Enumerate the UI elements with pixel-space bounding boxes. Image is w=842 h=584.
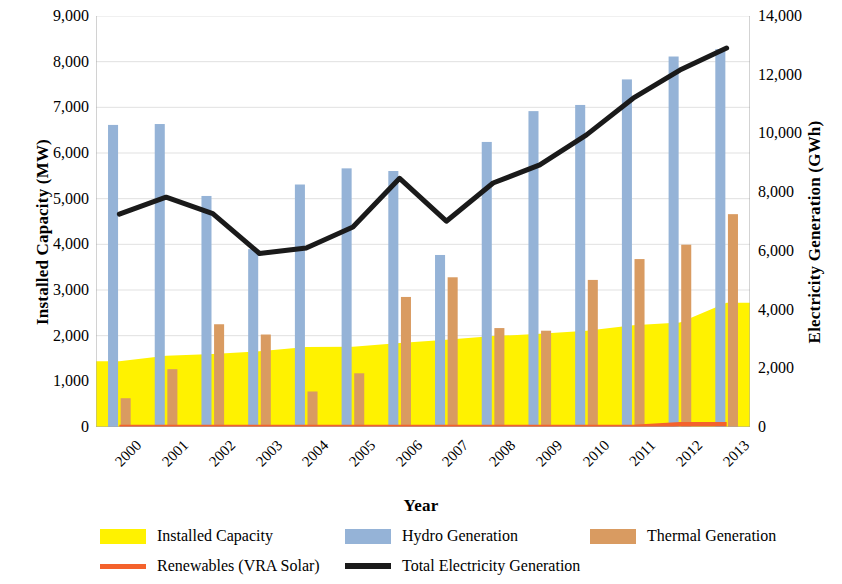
y-axis-right-tick-label: 2,000 [750, 360, 794, 376]
x-axis-tick-label: 2005 [324, 437, 378, 491]
y-axis-right-tick-label: 0 [750, 419, 766, 435]
chart-container: Installed Capacity (MW) Electricity Gene… [0, 0, 842, 584]
legend-row-2: Renewables (VRA Solar) Total Electricity… [100, 554, 800, 578]
x-axis-tick-label: 2003 [231, 437, 285, 491]
legend-label-total-electricity-generation: Total Electricity Generation [402, 557, 580, 575]
bar-thermal-generation [354, 373, 364, 427]
bar-thermal-generation [681, 245, 691, 427]
chart-legend: Installed Capacity Hydro Generation Ther… [100, 524, 800, 582]
y-axis-left-tick-label: 1,000 [53, 373, 96, 389]
x-axis-tick-label: 2002 [184, 437, 238, 491]
legend-swatch-thermal-generation [590, 529, 636, 544]
y-axis-right-tick-label: 4,000 [750, 302, 794, 318]
legend-item-thermal-generation: Thermal Generation [590, 527, 776, 545]
bar-thermal-generation [494, 328, 504, 427]
x-axis-tick-label: 2011 [605, 437, 659, 491]
legend-label-installed-capacity: Installed Capacity [157, 527, 273, 545]
y-axis-left-tick-label: 8,000 [53, 54, 96, 70]
x-axis-title: Year [0, 496, 842, 516]
bar-thermal-generation [167, 369, 177, 427]
x-axis-tick-label: 2001 [138, 437, 192, 491]
bar-hydro-generation [342, 168, 352, 427]
bar-hydro-generation [108, 125, 118, 427]
bar-hydro-generation [715, 49, 725, 427]
x-axis-tick-label: 2008 [465, 437, 519, 491]
legend-label-hydro-generation: Hydro Generation [402, 527, 518, 545]
plot-area: 01,0002,0003,0004,0005,0006,0007,0008,00… [96, 16, 750, 427]
y-axis-left-title: Installed Capacity (MW) [33, 107, 53, 357]
legend-line-renewables [100, 564, 146, 569]
legend-label-renewables: Renewables (VRA Solar) [157, 557, 320, 575]
x-axis-tick-label: 2012 [651, 437, 705, 491]
bar-hydro-generation [528, 111, 538, 427]
y-axis-right-tick-label: 10,000 [750, 125, 802, 141]
bar-thermal-generation [261, 335, 271, 427]
bar-thermal-generation [121, 398, 131, 427]
y-axis-right-tick-label: 8,000 [750, 184, 794, 200]
x-axis-tick-label: 2013 [698, 437, 752, 491]
x-axis-tick-label: 2009 [511, 437, 565, 491]
legend-swatch-hydro-generation [345, 529, 391, 544]
y-axis-left-tick-label: 5,000 [53, 191, 96, 207]
x-axis-tick-label: 2004 [278, 437, 332, 491]
bar-hydro-generation [435, 255, 445, 427]
bar-hydro-generation [575, 105, 585, 427]
bar-hydro-generation [201, 196, 211, 427]
x-axis-tick-label: 2006 [371, 437, 425, 491]
y-axis-right-tick-label: 14,000 [750, 8, 802, 24]
bar-thermal-generation [541, 331, 551, 427]
bar-thermal-generation [308, 391, 318, 427]
y-axis-left-tick-label: 0 [81, 419, 96, 435]
legend-line-total-electricity-generation [345, 563, 391, 569]
y-axis-left-tick-label: 7,000 [53, 99, 96, 115]
bar-thermal-generation [214, 324, 224, 427]
y-axis-right-tick-label: 12,000 [750, 67, 802, 83]
x-axis-tick-label: 2007 [418, 437, 472, 491]
legend-item-hydro-generation: Hydro Generation [345, 527, 518, 545]
bar-hydro-generation [388, 171, 398, 427]
x-axis-tick-label: 2010 [558, 437, 612, 491]
x-axis-tick-label: 2000 [91, 437, 145, 491]
bar-hydro-generation [669, 57, 679, 427]
y-axis-left-tick-label: 4,000 [53, 236, 96, 252]
plot-svg [96, 16, 750, 427]
legend-item-installed-capacity: Installed Capacity [100, 527, 273, 545]
y-axis-left-tick-label: 6,000 [53, 145, 96, 161]
bar-thermal-generation [728, 214, 738, 427]
y-axis-right-title: Electricity Generation (GWh) [805, 107, 825, 357]
y-axis-left-tick-label: 9,000 [53, 8, 96, 24]
bar-thermal-generation [635, 259, 645, 427]
bar-hydro-generation [248, 249, 258, 427]
bar-thermal-generation [588, 280, 598, 427]
series-area-installed-capacity [96, 303, 750, 427]
y-axis-left-tick-label: 3,000 [53, 282, 96, 298]
legend-item-renewables: Renewables (VRA Solar) [100, 557, 320, 575]
bar-hydro-generation [622, 79, 632, 427]
legend-label-thermal-generation: Thermal Generation [647, 527, 776, 545]
bar-hydro-generation [295, 185, 305, 427]
y-axis-right-tick-label: 6,000 [750, 243, 794, 259]
bar-thermal-generation [401, 297, 411, 427]
legend-row-1: Installed Capacity Hydro Generation Ther… [100, 524, 800, 548]
bar-thermal-generation [448, 277, 458, 427]
legend-item-total-electricity-generation: Total Electricity Generation [345, 557, 580, 575]
y-axis-left-tick-label: 2,000 [53, 328, 96, 344]
bar-hydro-generation [155, 124, 165, 427]
legend-swatch-installed-capacity [100, 529, 146, 544]
